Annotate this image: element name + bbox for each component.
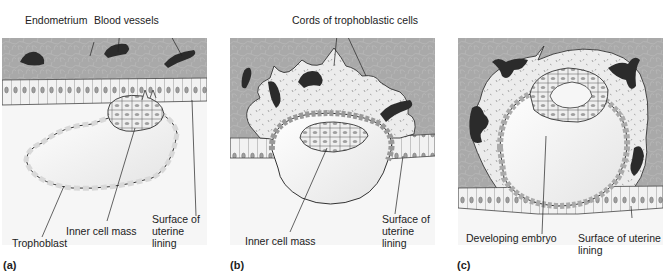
label-surface-a-line3: lining <box>152 237 177 249</box>
label-developing-embryo: Developing embryo <box>466 232 556 244</box>
label-surface-b-line1: Surface of <box>382 213 430 225</box>
label-surface-a-line2: uterine <box>152 225 184 237</box>
label-inner-cell-mass-a: Inner cell mass <box>66 225 137 237</box>
label-endometrium: Endometrium <box>25 14 87 26</box>
label-surface-a-line1: Surface of <box>152 213 200 225</box>
label-surface-b-line2: uterine <box>382 225 414 237</box>
label-trophoblast: Trophoblast <box>12 237 67 249</box>
uterine-epithelium <box>2 78 207 105</box>
inner-cell-mass <box>108 95 164 131</box>
label-cords-trophoblastic: Cords of trophoblastic cells <box>292 14 418 26</box>
label-blood-vessels: Blood vessels <box>94 14 159 26</box>
panel-c-illustration <box>458 38 663 245</box>
label-surface-c-line1: Surface of uterine <box>578 232 661 244</box>
panel-letter-a: (a) <box>3 259 16 271</box>
label-inner-cell-mass-b: Inner cell mass <box>245 235 316 247</box>
panel-letter-c: (c) <box>457 259 470 271</box>
label-surface-b-line3: lining <box>382 237 407 249</box>
label-surface-c-line2: lining <box>578 244 603 256</box>
panel-letter-b: (b) <box>230 259 244 271</box>
